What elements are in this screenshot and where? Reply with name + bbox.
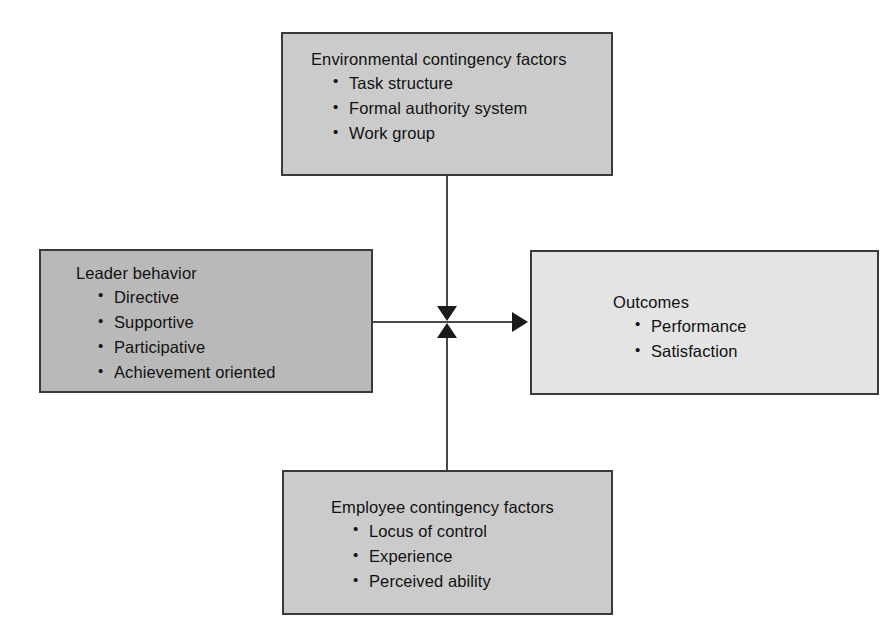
box-leader-content: Leader behavior Directive Supportive Par… — [76, 264, 371, 385]
box-environmental-content: Environmental contingency factors Task s… — [311, 50, 611, 146]
box-environmental-title: Environmental contingency factors — [311, 50, 611, 69]
bullet-item: Formal authority system — [332, 96, 611, 121]
box-outcomes-bullets: Performance Satisfaction — [634, 314, 877, 364]
arrowhead-down-icon — [437, 306, 457, 321]
connector-environmental-to-junction — [446, 176, 448, 306]
diagram-canvas: Environmental contingency factors Task s… — [0, 0, 890, 640]
bullet-item: Task structure — [332, 71, 611, 96]
arrowhead-right-icon — [512, 312, 528, 332]
arrowhead-up-icon — [437, 323, 457, 338]
box-leader-behavior[interactable]: Leader behavior Directive Supportive Par… — [39, 249, 373, 393]
box-outcomes[interactable]: Outcomes Performance Satisfaction — [530, 250, 879, 395]
bullet-item: Locus of control — [352, 519, 611, 544]
box-leader-title: Leader behavior — [76, 264, 371, 283]
box-employee-bullets: Locus of control Experience Perceived ab… — [352, 519, 611, 594]
bullet-item: Participative — [97, 335, 371, 360]
box-outcomes-content: Outcomes Performance Satisfaction — [613, 293, 877, 364]
box-environmental-contingency-factors[interactable]: Environmental contingency factors Task s… — [281, 32, 613, 176]
bullet-item: Achievement oriented — [97, 360, 371, 385]
box-environmental-bullets: Task structure Formal authority system W… — [332, 71, 611, 146]
box-leader-bullets: Directive Supportive Participative Achie… — [97, 285, 371, 385]
bullet-item: Performance — [634, 314, 877, 339]
box-employee-title: Employee contingency factors — [331, 498, 611, 517]
bullet-item: Directive — [97, 285, 371, 310]
bullet-item: Satisfaction — [634, 339, 877, 364]
box-employee-contingency-factors[interactable]: Employee contingency factors Locus of co… — [282, 470, 613, 615]
box-outcomes-title: Outcomes — [613, 293, 877, 312]
connector-employee-to-junction — [446, 338, 448, 470]
bullet-item: Supportive — [97, 310, 371, 335]
box-employee-content: Employee contingency factors Locus of co… — [331, 498, 611, 594]
bullet-item: Experience — [352, 544, 611, 569]
bullet-item: Work group — [332, 121, 611, 146]
bullet-item: Perceived ability — [352, 569, 611, 594]
